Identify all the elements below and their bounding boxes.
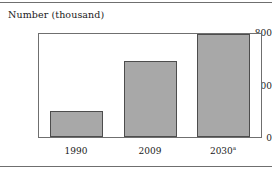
bar-series: [39, 34, 261, 137]
x-axis-tick-label-2030: 2030a: [196, 146, 250, 156]
chart-title: Number (thousand): [8, 9, 104, 20]
bar-1990: [50, 111, 103, 137]
x-axis-tick-footnote-marker: a: [233, 145, 236, 151]
bar-2009: [124, 61, 177, 137]
bottom-divider-rule: [0, 166, 272, 167]
bar-2030: [197, 34, 250, 137]
x-axis-tick-label-2030-text: 2030: [210, 146, 233, 156]
x-axis-tick-label-1990: 1990: [49, 146, 103, 156]
bar-chart-figure: Number (thousand) 800 400 0 1990 2009 20…: [0, 0, 272, 173]
plot-area: [38, 33, 262, 138]
x-axis-tick-label-2009: 2009: [123, 146, 177, 156]
top-divider-rule: [0, 2, 272, 3]
